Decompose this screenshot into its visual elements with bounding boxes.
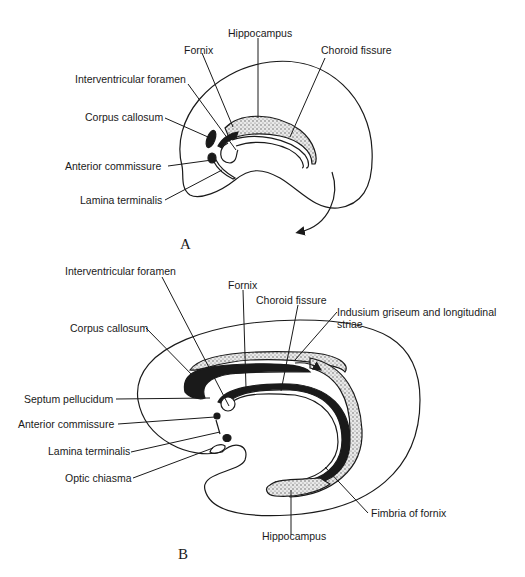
label-b-lamina-terminalis: Lamina terminalis (48, 445, 130, 457)
brain-diagram-svg (0, 0, 525, 577)
label-a-choroid-fissure: Choroid fissure (321, 44, 392, 56)
label-b-interventricular-foramen: Interventricular foramen (65, 265, 176, 277)
label-b-hippocampus: Hippocampus (262, 530, 326, 542)
label-a-anterior-commissure: Anterior commissure (65, 160, 161, 172)
label-b-fornix: Fornix (228, 279, 257, 291)
label-b-septum-pellucidum: Septum pellucidum (24, 393, 113, 405)
label-a-fornix: Fornix (184, 44, 213, 56)
label-b-anterior-commissure: Anterior commissure (18, 418, 114, 430)
panel-a-drawing (180, 61, 372, 232)
label-b-indusium-line2: striae (337, 318, 363, 330)
label-a-corpus-callosum: Corpus callosum (85, 111, 163, 123)
label-b-fimbria-of-fornix: Fimbria of fornix (371, 507, 446, 519)
label-a-hippocampus: Hippocampus (228, 27, 292, 39)
label-b-corpus-callosum: Corpus callosum (70, 322, 148, 334)
panel-b-letter: B (178, 546, 188, 563)
panel-a-letter: A (180, 236, 191, 253)
panel-b-drawing (138, 320, 420, 516)
label-b-indusium-line1: Indusium griseum and longitudinal (337, 306, 496, 318)
label-b-choroid-fissure: Choroid fissure (256, 294, 327, 306)
label-b-optic-chiasma: Optic chiasma (65, 472, 132, 484)
label-a-interventricular-foramen: Interventricular foramen (75, 73, 186, 85)
label-a-lamina-terminalis: Lamina terminalis (80, 194, 162, 206)
